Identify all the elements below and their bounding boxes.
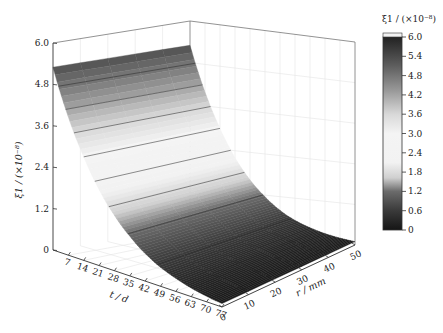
colorbar-tick-label: 0 [408, 225, 414, 235]
colorbar-tick-label: 2.4 [408, 148, 423, 158]
colorbar: 6.05.44.84.23.63.02.41.81.20.60ξ1 / (×10… [0, 0, 443, 333]
colorbar-tick-label: 4.2 [408, 90, 422, 100]
colorbar-cap [383, 33, 402, 37]
colorbar-tick-label: 4.8 [408, 71, 423, 81]
colorbar-tick-label: 3.0 [408, 129, 423, 139]
colorbar-tick-label: 3.6 [408, 109, 423, 119]
colorbar-tick-label: 0.6 [408, 206, 423, 216]
chart-container: 01.22.43.64.86.0714212835424956637077010… [0, 0, 443, 333]
colorbar-tick-label: 6.0 [408, 32, 423, 42]
colorbar-tick-label: 1.2 [408, 186, 422, 196]
colorbar-gradient [383, 37, 402, 230]
colorbar-tick-label: 5.4 [408, 51, 423, 61]
colorbar-title: ξ1 / (×10⁻⁸) [382, 14, 436, 24]
colorbar-tick-label: 1.8 [408, 167, 423, 177]
